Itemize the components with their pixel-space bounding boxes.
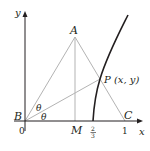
x-axis-arrow-icon <box>137 119 143 124</box>
point-m-label: M <box>70 124 83 137</box>
tick-two-thirds-denominator: 3 <box>91 132 95 139</box>
angle-theta-lower: θ <box>41 112 47 122</box>
locus-curve <box>93 15 128 121</box>
tick-one: 1 <box>122 126 128 136</box>
point-b-label: B <box>13 110 22 123</box>
point-c-label: C <box>124 109 133 122</box>
segment-bp <box>25 79 100 121</box>
y-axis-label: y <box>14 7 21 18</box>
tick-two-thirds-numerator: 2 <box>91 125 95 132</box>
geometry-diagram: y x 0 A B C M P (x, y) θ θ 2 3 1 <box>0 0 150 151</box>
origin-label: 0 <box>19 126 25 136</box>
y-axis-arrow-icon <box>23 11 28 17</box>
x-axis-label: x <box>139 126 145 137</box>
side-ba <box>25 37 75 121</box>
point-p-label: P (x, y) <box>103 74 139 85</box>
point-a-label: A <box>69 24 78 37</box>
